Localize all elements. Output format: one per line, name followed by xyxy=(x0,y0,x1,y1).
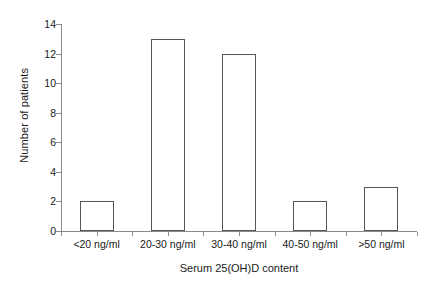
x-tick-mark xyxy=(97,232,98,236)
x-axis-title: Serum 25(OH)D content xyxy=(61,262,417,274)
y-axis-title: Number of patients xyxy=(16,0,32,231)
x-tick-label: 20-30 ng/ml xyxy=(140,238,195,251)
y-tick-label: 14 xyxy=(32,19,56,29)
y-tick-mark xyxy=(56,201,61,202)
x-tick-mark xyxy=(168,232,169,236)
x-tick-mark xyxy=(61,232,62,236)
y-tick-mark xyxy=(56,113,61,114)
x-tick-label: <20 ng/ml xyxy=(73,238,119,251)
plot-area xyxy=(61,24,417,231)
y-tick-mark xyxy=(56,172,61,173)
x-tick-mark xyxy=(203,232,204,236)
y-axis-tick-labels: 02468101214 xyxy=(32,0,56,291)
y-tick-label: 10 xyxy=(32,78,56,88)
y-tick-mark xyxy=(56,83,61,84)
y-tick-label: 4 xyxy=(32,167,56,177)
y-tick-label: 0 xyxy=(32,226,56,236)
bar xyxy=(151,39,185,231)
x-tick-mark xyxy=(310,232,311,236)
x-tick-label: >50 ng/ml xyxy=(358,238,404,251)
y-tick-label: 2 xyxy=(32,196,56,206)
x-tick-mark xyxy=(132,232,133,236)
bar xyxy=(222,54,256,231)
x-tick-mark xyxy=(381,232,382,236)
y-axis-title-text: Number of patients xyxy=(18,68,30,163)
x-tick-mark xyxy=(346,232,347,236)
bar xyxy=(293,201,327,231)
x-axis-tick-labels: <20 ng/ml20-30 ng/ml30-40 ng/ml40-50 ng/… xyxy=(61,238,417,254)
y-tick-label: 8 xyxy=(32,108,56,118)
x-tick-mark xyxy=(275,232,276,236)
bar-chart-figure: Number of patients 02468101214 <20 ng/ml… xyxy=(0,0,432,291)
bar xyxy=(80,201,114,231)
x-tick-mark xyxy=(417,232,418,236)
x-tick-label: 40-50 ng/ml xyxy=(282,238,337,251)
bar xyxy=(364,187,398,231)
y-tick-mark xyxy=(56,54,61,55)
x-tick-mark xyxy=(239,232,240,236)
y-tick-label: 12 xyxy=(32,49,56,59)
x-tick-label: 30-40 ng/ml xyxy=(211,238,266,251)
y-tick-mark xyxy=(56,142,61,143)
y-tick-mark xyxy=(56,24,61,25)
y-tick-label: 6 xyxy=(32,137,56,147)
